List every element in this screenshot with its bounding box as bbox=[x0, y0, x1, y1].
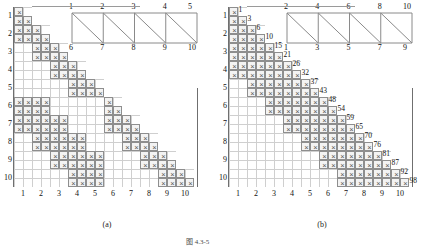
matrix-nonzero-cell: × bbox=[301, 88, 310, 97]
matrix-grid-cell bbox=[292, 133, 301, 142]
matrix-grid-cell bbox=[77, 97, 86, 106]
matrix-col-label: 1 bbox=[232, 189, 244, 198]
matrix-nonzero-cell: × bbox=[59, 142, 68, 151]
matrix-nonzero-cell: × bbox=[346, 160, 355, 169]
matrix-col-label: 10 bbox=[179, 189, 191, 198]
matrix-nonzero-cell: × bbox=[86, 151, 95, 160]
matrix-nonzero-cell: × bbox=[229, 25, 238, 34]
matrix-grid-cell bbox=[95, 124, 104, 133]
matrix-nonzero-cell: × bbox=[328, 160, 337, 169]
matrix-nonzero-cell: × bbox=[68, 160, 77, 169]
matrix-nonzero-cell: × bbox=[301, 97, 310, 106]
matrix-nonzero-cell: × bbox=[77, 178, 86, 187]
matrix-grid-cell bbox=[32, 178, 41, 187]
matrix-nonzero-cell: × bbox=[23, 16, 32, 25]
matrix-nonzero-cell: × bbox=[247, 52, 256, 61]
matrix-nonzero-cell: × bbox=[59, 61, 68, 70]
matrix-nonzero-cell: × bbox=[113, 115, 122, 124]
matrix-col-label: 2 bbox=[35, 189, 47, 198]
matrix-col-label: 4 bbox=[286, 189, 298, 198]
matrix-nonzero-cell: × bbox=[104, 97, 113, 106]
matrix-nonzero-cell: × bbox=[265, 88, 274, 97]
matrix-nonzero-cell: × bbox=[274, 61, 283, 70]
matrix-nonzero-cell: × bbox=[301, 115, 310, 124]
matrix-row-label: 7 bbox=[1, 119, 12, 128]
matrix-grid-cell bbox=[274, 124, 283, 133]
matrix-nonzero-cell: × bbox=[247, 88, 256, 97]
matrix-top-rule bbox=[32, 6, 140, 7]
matrix-nonzero-cell: × bbox=[77, 133, 86, 142]
matrix-left-rule bbox=[13, 7, 14, 187]
matrix-nonzero-cell: × bbox=[41, 142, 50, 151]
matrix-grid-cell bbox=[86, 97, 95, 106]
matrix-nonzero-cell: × bbox=[140, 142, 149, 151]
matrix-nonzero-cell: × bbox=[122, 133, 131, 142]
matrix-nonzero-cell: × bbox=[140, 133, 149, 142]
matrix-grid-cell bbox=[238, 115, 247, 124]
matrix-nonzero-cell: × bbox=[292, 97, 301, 106]
matrix-grid-cell bbox=[113, 97, 122, 106]
matrix-nonzero-cell: × bbox=[328, 142, 337, 151]
matrix-nonzero-cell: × bbox=[14, 97, 23, 106]
truss-node-label-top: 5 bbox=[188, 2, 192, 11]
truss-diagram-b: 24681013579 bbox=[277, 0, 422, 55]
matrix-nonzero-cell: × bbox=[328, 115, 337, 124]
matrix-grid-cell bbox=[292, 169, 301, 178]
skyline-diagonal-pointer: 98 bbox=[410, 176, 418, 185]
matrix-nonzero-cell: × bbox=[41, 43, 50, 52]
matrix-row-label: 1 bbox=[216, 11, 227, 20]
matrix-grid-cell bbox=[256, 106, 265, 115]
matrix-nonzero-cell: × bbox=[346, 133, 355, 142]
matrix-grid-cell bbox=[104, 169, 113, 178]
matrix-grid-cell bbox=[131, 178, 140, 187]
matrix-grid-cell bbox=[140, 169, 149, 178]
matrix-nonzero-cell: × bbox=[247, 70, 256, 79]
matrix-grid-cell bbox=[229, 178, 238, 187]
matrix-nonzero-cell: × bbox=[113, 124, 122, 133]
matrix-nonzero-cell: × bbox=[238, 16, 247, 25]
matrix-grid-cell bbox=[256, 160, 265, 169]
matrix-grid-cell bbox=[274, 115, 283, 124]
matrix-grid-cell bbox=[77, 115, 86, 124]
matrix-nonzero-cell: × bbox=[23, 97, 32, 106]
matrix-grid-cell bbox=[14, 61, 23, 70]
matrix-nonzero-cell: × bbox=[301, 124, 310, 133]
matrix-grid-cell bbox=[41, 169, 50, 178]
matrix-grid-cell bbox=[95, 79, 104, 88]
matrix-nonzero-cell: × bbox=[355, 142, 364, 151]
matrix-grid-cell bbox=[265, 160, 274, 169]
matrix-nonzero-cell: × bbox=[364, 142, 373, 151]
matrix-row-label: 4 bbox=[1, 65, 12, 74]
matrix-nonzero-cell: × bbox=[355, 169, 364, 178]
matrix-nonzero-cell: × bbox=[41, 34, 50, 43]
matrix-nonzero-cell: × bbox=[238, 70, 247, 79]
skyline-diagonal-pointer: 1 bbox=[239, 5, 243, 14]
matrix-nonzero-cell: × bbox=[247, 79, 256, 88]
matrix-nonzero-cell: × bbox=[50, 160, 59, 169]
skyline-diagonal-pointer: 48 bbox=[329, 95, 337, 104]
matrix-grid-cell bbox=[104, 151, 113, 160]
matrix-grid-cell bbox=[167, 151, 176, 160]
matrix-grid-cell bbox=[229, 169, 238, 178]
matrix-grid-cell bbox=[229, 151, 238, 160]
truss-node-label-bottom: 3 bbox=[315, 43, 319, 52]
matrix-col-label: 9 bbox=[376, 189, 388, 198]
matrix-nonzero-cell: × bbox=[14, 16, 23, 25]
matrix-nonzero-cell: × bbox=[274, 79, 283, 88]
matrix-nonzero-cell: × bbox=[391, 178, 400, 187]
matrix-grid-cell bbox=[14, 142, 23, 151]
matrix-nonzero-cell: × bbox=[50, 151, 59, 160]
matrix-grid-cell bbox=[131, 160, 140, 169]
matrix-grid-cell bbox=[229, 97, 238, 106]
matrix-row-label: 9 bbox=[216, 155, 227, 164]
matrix-grid-cell bbox=[50, 97, 59, 106]
matrix-grid-cell bbox=[23, 7, 32, 16]
matrix-grid-cell bbox=[265, 169, 274, 178]
matrix-row-label: 3 bbox=[1, 47, 12, 56]
matrix-nonzero-cell: × bbox=[95, 88, 104, 97]
matrix-grid-cell bbox=[265, 142, 274, 151]
matrix-nonzero-cell: × bbox=[319, 106, 328, 115]
matrix-nonzero-cell: × bbox=[68, 142, 77, 151]
matrix-nonzero-cell: × bbox=[319, 97, 328, 106]
matrix-grid-cell bbox=[32, 79, 41, 88]
